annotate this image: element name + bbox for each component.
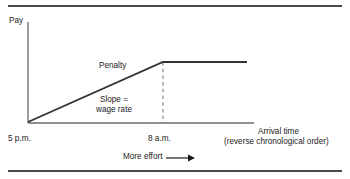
more-effort-arrow-icon bbox=[166, 155, 195, 162]
slope-annotation-line1: Slope = bbox=[100, 95, 128, 104]
penalty-annotation: Penalty bbox=[99, 61, 126, 71]
x-axis-label: Arrival time bbox=[258, 127, 299, 137]
more-effort-annotation: More effort bbox=[123, 152, 162, 162]
slope-annotation-line2: wage rate bbox=[96, 105, 132, 114]
x-tick-label-kink: 8 a.m. bbox=[148, 134, 171, 144]
plot-area bbox=[0, 0, 350, 179]
x-tick-label-start: 5 p.m. bbox=[8, 134, 31, 144]
figure-container: Pay Penalty Slope = wage rate 5 p.m. 8 a… bbox=[0, 0, 350, 179]
y-axis-label: Pay bbox=[9, 16, 23, 26]
pay-schedule-line bbox=[28, 62, 247, 122]
slope-annotation: Slope = wage rate bbox=[96, 95, 132, 115]
x-axis-sublabel: (reverse chronological order) bbox=[224, 137, 329, 147]
